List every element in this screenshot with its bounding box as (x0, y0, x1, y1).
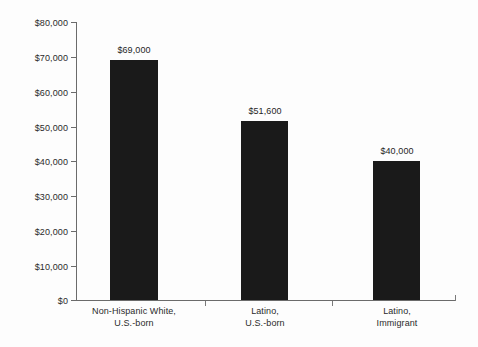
bar-non-hispanic-white-us-born (110, 60, 158, 300)
category-label-line1: Non-Hispanic White, (92, 306, 176, 316)
y-axis-label-50000: $50,000 (4, 123, 68, 133)
category-label-line2: U.S.-born (64, 318, 204, 330)
x-axis-end-tick (455, 295, 456, 301)
bar-latino-us-born (241, 121, 288, 300)
bar-value-label: $51,600 (225, 106, 305, 116)
x-axis-category-latino-immigrant: Latino, Immigrant (327, 306, 467, 329)
x-axis-category-non-hispanic-white-us-born: Non-Hispanic White, U.S.-born (64, 306, 204, 329)
y-axis-label-70000: $70,000 (4, 53, 68, 63)
y-axis-tick (71, 127, 76, 128)
bar-chart: $80,000 $70,000 $60,000 $50,000 $40,000 … (0, 0, 478, 347)
category-label-line2: Immigrant (327, 318, 467, 330)
x-axis-line (76, 300, 456, 301)
y-axis-tick (71, 22, 76, 23)
y-axis-label-40000: $40,000 (4, 157, 68, 167)
y-axis-tick (71, 231, 76, 232)
category-label-line2: U.S.-born (195, 318, 335, 330)
y-axis-tick (71, 92, 76, 93)
bar-latino-immigrant (373, 161, 420, 300)
y-axis-tick (71, 196, 76, 197)
bar-value-label: $40,000 (357, 146, 437, 156)
y-axis-tick (71, 57, 76, 58)
x-axis-category-latino-us-born: Latino, U.S.-born (195, 306, 335, 329)
bar-value-label: $69,000 (94, 45, 174, 55)
y-axis-label-0: $0 (4, 296, 68, 306)
y-axis-label-80000: $80,000 (4, 18, 68, 28)
category-label-line1: Latino, (383, 306, 411, 316)
category-label-line1: Latino, (251, 306, 279, 316)
y-axis-label-30000: $30,000 (4, 192, 68, 202)
y-axis-label-20000: $20,000 (4, 227, 68, 237)
y-axis-label-10000: $10,000 (4, 262, 68, 272)
y-axis-tick (71, 161, 76, 162)
y-axis-label-60000: $60,000 (4, 88, 68, 98)
y-axis-line (76, 22, 77, 301)
y-axis-tick (71, 266, 76, 267)
